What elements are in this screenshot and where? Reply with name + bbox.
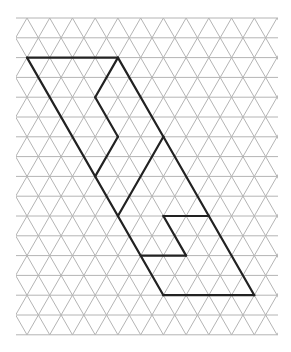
grid-diagonal-line [277, 18, 291, 335]
triangular-grid [0, 18, 291, 335]
grid-diagonal-line [0, 18, 4, 335]
grid-diagonal-line [277, 18, 291, 335]
triangular-grid-figure [0, 0, 291, 352]
grid-diagonal-line [0, 18, 4, 335]
